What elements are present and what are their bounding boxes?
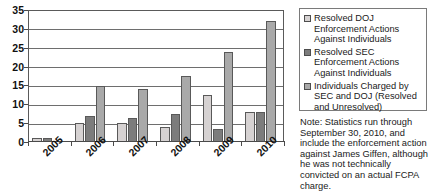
- y-axis: 05101520253035: [0, 0, 24, 195]
- x-axis-tick-mark: [71, 141, 72, 146]
- y-axis-tick-label: 20: [2, 62, 24, 73]
- bar-group-2006: [71, 10, 114, 142]
- bar-group-2007: [113, 10, 156, 142]
- legend-swatch-resolved-sec: [304, 49, 311, 56]
- y-axis-tick-label: 5: [2, 118, 24, 129]
- x-axis-tick-mark: [113, 141, 114, 146]
- chart-screenshot: 05101520253035 200520062007200820092010 …: [0, 0, 430, 195]
- y-axis-tick-mark: [24, 29, 28, 30]
- legend-item: Individuals Charged by SEC and DOJ (Reso…: [304, 81, 423, 113]
- y-axis-tick-mark: [24, 67, 28, 68]
- x-axis-tick-mark: [284, 141, 285, 146]
- bar: [266, 21, 276, 142]
- y-axis-tick-label: 15: [2, 80, 24, 91]
- y-axis-tick-mark: [24, 104, 28, 105]
- x-axis-tick-mark: [241, 141, 242, 146]
- legend-item-label: Resolved DOJ Enforcement Actions Against…: [314, 13, 423, 45]
- y-axis-tick-mark: [24, 48, 28, 49]
- y-axis-tick-label: 30: [2, 24, 24, 35]
- y-axis-tick-mark: [24, 123, 28, 124]
- x-axis-tick-mark: [156, 141, 157, 146]
- y-axis-tick-label: 25: [2, 43, 24, 54]
- bar: [75, 123, 85, 142]
- x-axis-tick-mark: [199, 141, 200, 146]
- legend-item-label: Individuals Charged by SEC and DOJ (Reso…: [314, 81, 423, 113]
- bar: [203, 95, 213, 142]
- legend-swatch-resolved-doj: [304, 15, 311, 22]
- legend-swatch-individuals-charged: [304, 83, 311, 90]
- y-axis-tick-label: 0: [2, 137, 24, 148]
- chart-legend: Resolved DOJ Enforcement Actions Against…: [299, 8, 427, 111]
- y-axis-tick-label: 10: [2, 99, 24, 110]
- y-axis-tick-mark: [24, 10, 28, 11]
- legend-item: Resolved SEC Enforcement Actions Against…: [304, 47, 423, 79]
- bar-group-2009: [199, 10, 242, 142]
- chart-note: Note: Statistics run through September 3…: [300, 117, 430, 191]
- bar: [245, 112, 255, 142]
- bar: [117, 123, 127, 142]
- y-axis-tick-label: 35: [2, 5, 24, 16]
- bar-group-2005: [28, 10, 71, 142]
- bar-group-2010: [241, 10, 284, 142]
- bar-group-2008: [156, 10, 199, 142]
- legend-item: Resolved DOJ Enforcement Actions Against…: [304, 13, 423, 45]
- bar: [160, 127, 170, 142]
- bars-layer: [28, 10, 284, 142]
- bar: [256, 112, 266, 142]
- bar-chart: 05101520253035 200520062007200820092010: [0, 0, 292, 195]
- bar: [224, 52, 234, 143]
- legend-item-label: Resolved SEC Enforcement Actions Against…: [314, 47, 423, 79]
- bar: [181, 76, 191, 142]
- y-axis-tick-mark: [24, 85, 28, 86]
- x-axis-tick-mark: [28, 141, 29, 146]
